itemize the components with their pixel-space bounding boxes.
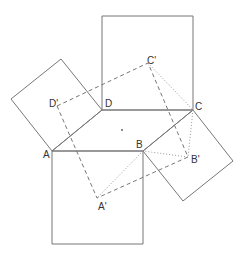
label-c-prime: C'	[147, 56, 156, 66]
label-d-prime: D'	[49, 99, 58, 109]
label-b: B	[136, 140, 143, 150]
label-b-prime: B'	[191, 155, 200, 165]
diagram-canvas: A B C D A' B' C' D'	[0, 0, 247, 257]
label-a-prime: A'	[98, 202, 107, 212]
label-a: A	[43, 150, 50, 160]
label-c: C	[195, 102, 202, 112]
center-point	[121, 129, 123, 131]
label-d: D	[105, 99, 112, 109]
geometry-figure	[0, 0, 247, 257]
dotted-helper-lines	[97, 63, 193, 198]
